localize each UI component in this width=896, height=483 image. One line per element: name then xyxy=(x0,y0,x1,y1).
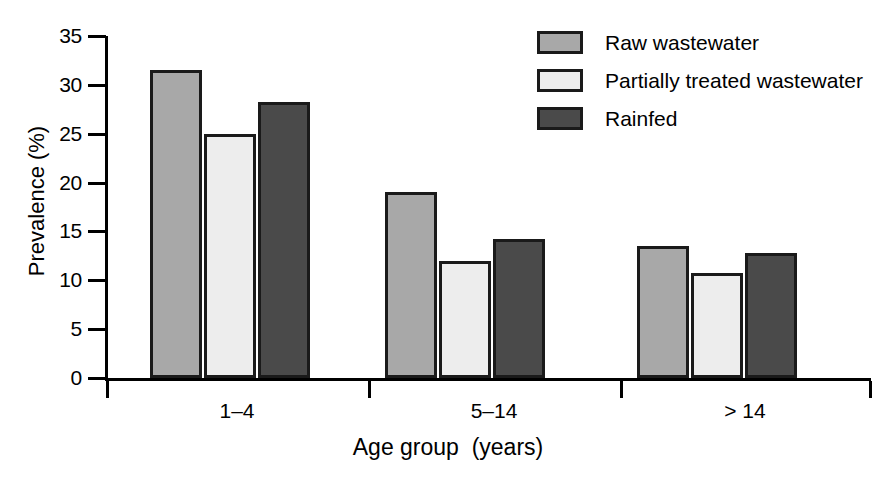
bar xyxy=(745,253,797,378)
x-category-label: 1–4 xyxy=(177,399,297,423)
bar-chart-figure: 35302520151050 Prevalence (%) 1–45–14> 1… xyxy=(0,0,896,483)
bar xyxy=(439,261,491,378)
legend-swatch-icon xyxy=(537,107,583,130)
bar xyxy=(385,192,437,378)
x-axis-title: Age group (years) xyxy=(0,434,896,460)
legend-label: Rainfed xyxy=(605,103,677,134)
legend-swatch-icon xyxy=(537,69,583,92)
bar xyxy=(637,246,689,378)
bar xyxy=(258,102,310,378)
legend-label: Raw wastewater xyxy=(605,27,759,58)
x-tick-mark-0 xyxy=(106,381,109,398)
x-tick-mark-1 xyxy=(368,381,371,398)
legend-item: Raw wastewater xyxy=(537,27,887,65)
legend-swatch-icon xyxy=(537,31,583,54)
x-axis-line xyxy=(105,378,871,381)
x-tick-mark-3 xyxy=(869,381,872,398)
x-category-label: 5–14 xyxy=(434,399,554,423)
bar xyxy=(691,273,743,378)
x-category-label: > 14 xyxy=(685,399,805,423)
legend: Raw wastewaterPartially treated wastewat… xyxy=(537,27,887,141)
x-tick-mark-2 xyxy=(620,381,623,398)
legend-item: Partially treated wastewater xyxy=(537,65,887,103)
legend-item: Rainfed xyxy=(537,103,887,141)
bar xyxy=(150,70,202,378)
bar xyxy=(204,134,256,378)
bar xyxy=(493,239,545,378)
legend-label: Partially treated wastewater xyxy=(605,65,863,96)
